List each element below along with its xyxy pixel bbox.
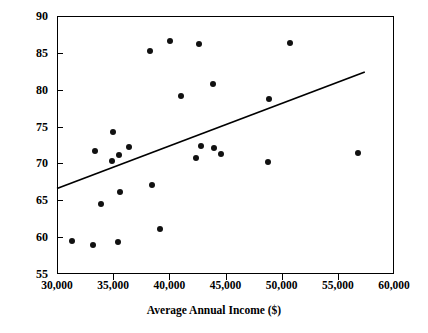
data-point bbox=[90, 242, 96, 248]
data-point bbox=[196, 41, 202, 47]
data-point bbox=[210, 81, 216, 87]
data-point bbox=[287, 40, 293, 46]
data-point bbox=[116, 152, 122, 158]
data-point bbox=[193, 155, 199, 161]
data-point bbox=[355, 150, 361, 156]
data-points-layer bbox=[0, 0, 428, 333]
data-point bbox=[167, 38, 173, 44]
scatter-chart: High School Graduation Rates (%) 5560657… bbox=[0, 0, 428, 333]
data-point bbox=[98, 201, 104, 207]
data-point bbox=[109, 158, 115, 164]
data-point bbox=[69, 238, 75, 244]
x-axis-title: Average Annual Income ($) bbox=[0, 304, 428, 316]
data-point bbox=[198, 143, 204, 149]
data-point bbox=[126, 144, 132, 150]
data-point bbox=[92, 148, 98, 154]
data-point bbox=[218, 151, 224, 157]
data-point bbox=[266, 96, 272, 102]
data-point bbox=[211, 145, 217, 151]
data-point bbox=[110, 129, 116, 135]
data-point bbox=[265, 159, 271, 165]
data-point bbox=[117, 189, 123, 195]
data-point bbox=[178, 93, 184, 99]
data-point bbox=[115, 239, 121, 245]
data-point bbox=[147, 48, 153, 54]
data-point bbox=[157, 226, 163, 232]
data-point bbox=[149, 182, 155, 188]
